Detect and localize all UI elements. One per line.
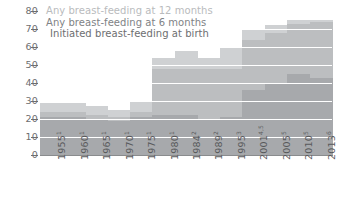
x-tick-footnote: 6	[325, 131, 332, 135]
x-tick-footnote: 2	[212, 131, 219, 135]
x-tick-footnote: 1	[123, 131, 130, 135]
gridline-40	[40, 83, 332, 84]
x-tick-label-1960: 19601	[78, 146, 90, 160]
x-tick-footnote: 5	[280, 131, 287, 135]
x-tick-footnote: 5	[302, 131, 309, 135]
legend: Any breast-feeding at 12 months Any brea…	[46, 5, 213, 40]
y-tick-mark-80	[31, 11, 38, 12]
y-tick-mark-10	[31, 137, 38, 138]
x-tick-label-1984: 19842	[190, 146, 202, 160]
x-tick-footnote: 1	[145, 131, 152, 135]
x-tick-footnote: 1	[55, 131, 62, 135]
x-tick-label-1955: 19551	[55, 146, 67, 160]
y-tick-mark-0	[31, 155, 38, 156]
breastfeeding-trend-chart: 80706050403020100 Any breast-feeding at …	[0, 0, 338, 197]
x-tick-label-1965: 19651	[100, 146, 112, 160]
gridline-60	[40, 47, 332, 48]
gridline-20	[40, 119, 332, 120]
x-tick-label-1975: 19751	[145, 146, 157, 160]
x-tick-footnote: 1	[168, 131, 175, 135]
x-tick-label-2001: 20014,5	[257, 146, 269, 160]
x-tick-label-2013: 20136	[325, 146, 337, 160]
x-tick-footnote: 3	[235, 131, 242, 135]
gridline-50	[40, 65, 332, 66]
x-tick-footnote: 1	[78, 131, 85, 135]
y-tick-mark-60	[31, 47, 38, 48]
x-tick-label-2010: 20105	[302, 146, 314, 160]
y-tick-mark-70	[31, 29, 38, 30]
x-tick-label-2005: 20055	[280, 146, 292, 160]
y-tick-mark-20	[31, 119, 38, 120]
y-tick-mark-30	[31, 101, 38, 102]
gridline-30	[40, 101, 332, 102]
legend-item-6-months: Any breast-feeding at 6 months	[46, 17, 213, 29]
legend-item-12-months: Any breast-feeding at 12 months	[46, 5, 213, 17]
y-tick-mark-50	[31, 65, 38, 66]
x-tick-label-1995: 19953	[235, 146, 247, 160]
x-tick-footnote: 2	[190, 131, 197, 135]
x-tick-label-1980: 19801	[168, 146, 180, 160]
x-tick-footnote: 4,5	[257, 125, 264, 135]
x-tick-label-1970: 19701	[123, 146, 135, 160]
x-tick-footnote: 1	[100, 131, 107, 135]
y-tick-mark-40	[31, 83, 38, 84]
x-tick-label-1989: 19892	[212, 146, 224, 160]
legend-item-initiated: Initiated breast-feeding at birth	[46, 28, 213, 40]
